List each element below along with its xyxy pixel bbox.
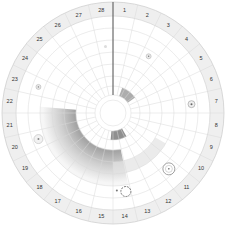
- day-label-13: 13: [144, 208, 150, 214]
- day-label-15: 15: [98, 213, 104, 219]
- day-label-4: 4: [185, 36, 188, 42]
- day-label-18: 18: [36, 184, 42, 190]
- day-label-10: 10: [198, 165, 204, 171]
- day-label-12: 12: [165, 198, 171, 204]
- day-label-8: 8: [215, 122, 218, 128]
- marker-day-3-icon-dot: [148, 56, 149, 57]
- day-label-16: 16: [76, 208, 82, 214]
- marker-day-14-icon-dot: [116, 190, 118, 192]
- day-label-1: 1: [123, 7, 126, 13]
- day-label-9: 9: [210, 144, 213, 150]
- marker-day-23-icon-dot: [38, 86, 39, 87]
- day-label-28: 28: [98, 7, 104, 13]
- day-label-14: 14: [122, 213, 128, 219]
- day-label-19: 19: [22, 165, 28, 171]
- day-label-27: 27: [76, 12, 82, 18]
- day-label-17: 17: [55, 198, 61, 204]
- day-label-25: 25: [36, 36, 42, 42]
- day-label-11: 11: [184, 184, 190, 190]
- day-label-6: 6: [210, 76, 213, 82]
- day-label-5: 5: [200, 55, 203, 61]
- day-label-23: 23: [12, 76, 18, 82]
- marker-day-7-icon-dot: [191, 103, 193, 105]
- marker-day-20-icon-dot: [37, 138, 39, 140]
- day-label-7: 7: [215, 98, 218, 104]
- center-hub: [100, 100, 126, 126]
- day-label-26: 26: [55, 22, 61, 28]
- marker-day-11-icon-dot: [168, 168, 170, 170]
- day-label-3: 3: [167, 22, 170, 28]
- day-label-21: 21: [7, 122, 13, 128]
- day-label-2: 2: [146, 12, 149, 18]
- marker-day-28-icon: [104, 45, 107, 48]
- day-label-22: 22: [7, 98, 13, 104]
- day-label-24: 24: [22, 55, 28, 61]
- cycle-wheel: 1234567891011121314151617181920212223242…: [0, 0, 226, 225]
- day-label-20: 20: [12, 144, 18, 150]
